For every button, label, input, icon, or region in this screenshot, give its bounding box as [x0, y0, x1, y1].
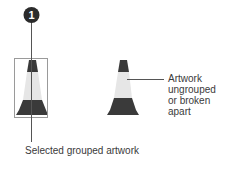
callout-badge: 1: [24, 7, 40, 23]
cone-right-stripe: [114, 72, 132, 98]
cone-right-tip: [118, 60, 129, 72]
cone-left-tip: [27, 60, 38, 72]
callout-number: 1: [28, 9, 34, 21]
cone-right-base: [107, 98, 139, 115]
ungrouped-cone[interactable]: [107, 60, 139, 115]
ungrouped-artwork-label: Artwork ungrouped or broken apart: [168, 73, 226, 117]
cone-left-stripe: [23, 72, 42, 100]
selected-grouped-label: Selected grouped artwork: [25, 145, 139, 156]
